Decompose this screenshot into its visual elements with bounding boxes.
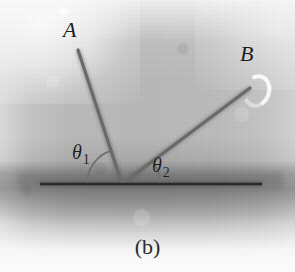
angle-arc-theta1 (87, 151, 111, 184)
angle-label-theta1: θ1 (72, 142, 89, 162)
speck-highlight-icon (58, 8, 68, 15)
figure-caption: (b) (0, 234, 295, 260)
figure-panel-b: A B θ1 θ2 (b) (0, 0, 295, 272)
angle-label-theta2: θ2 (152, 155, 169, 175)
ray-b-label: B (240, 43, 253, 65)
ray-a-label: A (63, 19, 76, 41)
theta2-subscript: 2 (163, 165, 170, 180)
theta2-symbol: θ (152, 154, 162, 176)
theta1-subscript: 1 (83, 152, 90, 167)
theta1-symbol: θ (72, 141, 82, 163)
ray-b-line (122, 88, 250, 184)
